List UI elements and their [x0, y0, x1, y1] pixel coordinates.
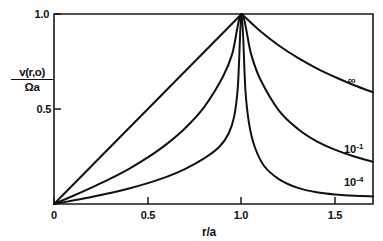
curve-label-10e-4-base: 10: [344, 176, 356, 188]
y-axis-ticks: [54, 14, 61, 109]
x-axis-ticks: [54, 197, 335, 204]
curve-label-infinity: ∞: [348, 74, 356, 86]
x-tick-label-0: 0: [51, 209, 57, 221]
curve-label-10e-4-exponent: -4: [356, 175, 364, 184]
x-axis-label: r/a: [202, 225, 217, 239]
curve-infinity: [54, 14, 373, 204]
curve-label-10e-1-exponent: -1: [356, 142, 364, 151]
y-tick-label-0.5: 0.5: [37, 103, 52, 115]
curve-labels: ∞ 10-1 10-4: [344, 74, 364, 188]
x-tick-label-1.5: 1.5: [328, 209, 343, 221]
curve-label-10e-4: 10-4: [344, 175, 364, 188]
x-tick-label-0.5: 0.5: [141, 209, 156, 221]
curve-label-10e-1-base: 10: [344, 143, 356, 155]
chart-plot: 1.0 0.5 0 0.5 1.0 1.5 r/a ∞ 10-1 10-4: [0, 0, 383, 241]
data-curves: [54, 14, 373, 204]
x-tick-label-1.0: 1.0: [234, 209, 249, 221]
y-tick-label-1.0: 1.0: [35, 8, 50, 20]
figure-container: v(r,o) Ωa 1.0 0.5 0 0.5 1.0 1.5 r/a: [0, 0, 383, 241]
curve-label-10e-1: 10-1: [344, 142, 364, 155]
